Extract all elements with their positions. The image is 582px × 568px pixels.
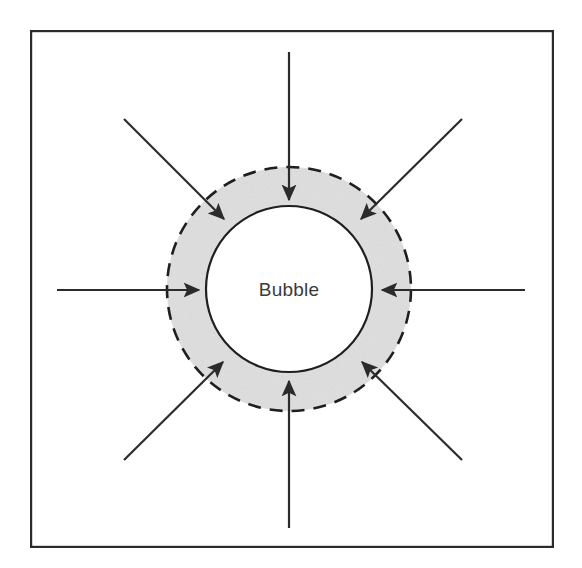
arrow-northwest	[124, 119, 224, 219]
bubble-label: Bubble	[259, 279, 319, 300]
arrow-southwest	[124, 362, 223, 460]
arrow-southeast	[362, 362, 462, 460]
bubble-pressure-diagram: Bubble	[0, 0, 582, 568]
arrow-northeast	[361, 119, 462, 219]
diagram-canvas: Bubble	[0, 0, 582, 568]
